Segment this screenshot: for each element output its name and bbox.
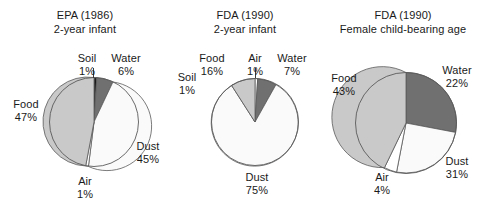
panel-title-line-1: FDA (1990) [320,8,486,22]
panel-title-line-1: EPA (1986) [0,8,170,22]
pie-label-water: Water 22% [434,64,480,89]
pie-label-dust: Dust 75% [238,171,276,196]
pie-label-dust-name: Dust [238,171,276,184]
pie-label-dust: Dust 31% [438,155,476,180]
pie-label-water: Water 6% [105,52,147,77]
pie-slice-food [43,77,94,166]
pie-label-soil-name: Soil [170,71,204,84]
pie-label-water-name: Water [434,64,480,77]
pie-label-water-value: 22% [434,77,480,90]
pie-label-air-value: 1% [68,188,102,201]
panel-title-line-2: 2-year infant [170,22,320,36]
pie-label-dust-name: Dust [129,140,167,153]
panel-title-fda-1990-infant: FDA (1990) 2-year infant [170,8,320,36]
panel-title-line-1: FDA (1990) [170,8,320,22]
pie-label-air: Air 4% [365,171,399,196]
pie-svg-epa-1986 [49,77,139,167]
pie-label-water-value: 7% [271,65,313,78]
pie-label-air-name: Air [68,175,102,188]
pie-fda-1990-infant [211,78,299,166]
pie-label-food-name: Food [324,72,364,85]
pie-label-soil: Soil 1% [170,71,204,96]
pie-label-food-value: 47% [6,111,46,124]
pie-label-air-name: Air [238,52,272,65]
pie-label-water-name: Water [105,52,147,65]
pie-label-water-name: Water [271,52,313,65]
pie-chart-figure: EPA (1986) 2-year infant Soil [0,0,486,210]
pie-label-air-value: 1% [238,65,272,78]
pie-label-food-name: Food [6,98,46,111]
chart-panel-fda-1990-female: FDA (1990) Female child-bearing age Food… [320,0,486,210]
pie-label-soil-name: Soil [68,52,106,65]
chart-panel-fda-1990-infant: FDA (1990) 2-year infant Food 16 [170,0,320,210]
pie-label-dust-value: 75% [238,184,276,197]
pie-label-food-name: Food [192,52,232,65]
pie-label-dust-value: 31% [438,168,476,181]
pie-label-air: Air 1% [238,52,272,77]
pie-label-soil-value: 1% [170,84,204,97]
pie-label-air-name: Air [365,171,399,184]
pie-label-air-value: 4% [365,184,399,197]
pie-label-dust-name: Dust [438,155,476,168]
pie-label-air: Air 1% [68,175,102,200]
pie-label-soil: Soil 1% [68,52,106,77]
pie-label-water: Water 7% [271,52,313,77]
panel-title-line-2: Female child-bearing age [320,22,486,36]
pie-label-food-value: 43% [324,85,364,98]
pie-label-food: Food 43% [324,72,364,97]
panel-title-line-2: 2-year infant [0,22,170,36]
pie-svg-fda-1990-infant [211,78,299,166]
panel-title-epa-1986: EPA (1986) 2-year infant [0,8,170,36]
pie-label-food: Food 47% [6,98,46,123]
pie-label-dust-value: 45% [129,153,167,166]
panel-title-fda-1990-female: FDA (1990) Female child-bearing age [320,8,486,36]
pie-label-dust: Dust 45% [129,140,167,165]
pie-label-water-value: 6% [105,65,147,78]
pie-label-soil-value: 1% [68,65,106,78]
pie-epa-1986 [49,77,139,167]
chart-panel-epa-1986: EPA (1986) 2-year infant Soil [0,0,170,210]
